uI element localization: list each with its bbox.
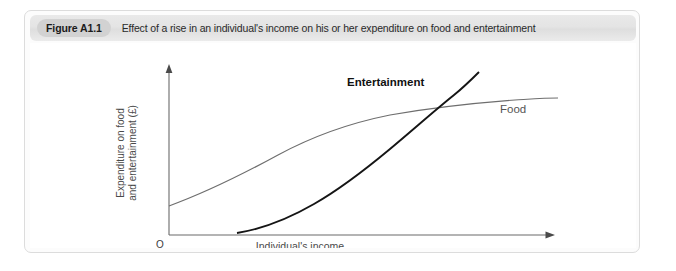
figure-header-bar: Figure A1.1 Effect of a rise in an indiv… [30, 15, 636, 41]
curve-entertainment [237, 72, 479, 233]
figure-caption: Effect of a rise in an individual's inco… [122, 22, 536, 34]
figure-number-badge: Figure A1.1 [37, 19, 111, 37]
curve-label-entertainment: Entertainment [347, 76, 424, 88]
origin-label: O [156, 239, 164, 248]
figure-card: Figure A1.1 Effect of a rise in an indiv… [24, 10, 640, 253]
engel-curve-chart: Entertainment Food O Individual's income… [30, 43, 636, 248]
curve-label-food: Food [500, 103, 526, 115]
y-axis-arrowhead [166, 64, 173, 73]
chart-plot-area: Entertainment Food O Individual's income… [30, 43, 636, 248]
y-axis-label-line2: and entertainment (£) [127, 105, 138, 201]
x-axis-label: Individual's income [256, 240, 345, 248]
x-axis-arrowhead [546, 231, 556, 238]
y-axis-label-line1: Expenditure on food [115, 108, 126, 198]
